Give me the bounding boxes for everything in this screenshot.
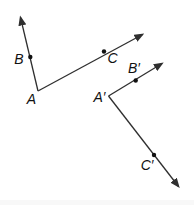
- geometry-figure: BCAB′C′A′: [0, 0, 194, 211]
- page-edge-artifact: [0, 200, 194, 205]
- geometry-canvas: BCAB′C′A′: [0, 0, 194, 211]
- label-C: C: [107, 50, 118, 66]
- point-B-prime: [134, 78, 138, 82]
- label-B-prime: B′: [128, 60, 141, 76]
- point-C: [102, 49, 106, 53]
- ray-A-C: [38, 35, 143, 92]
- point-B: [28, 55, 32, 59]
- label-A-prime: A′: [93, 89, 107, 105]
- label-B: B: [14, 51, 23, 67]
- label-A: A: [26, 91, 36, 107]
- label-C-prime: C′: [141, 157, 155, 173]
